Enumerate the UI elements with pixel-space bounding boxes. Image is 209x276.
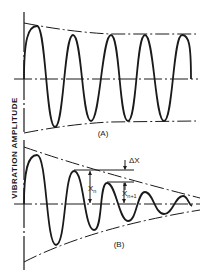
y-axis-label: VIBRATION AMPLITUDE xyxy=(10,97,19,199)
panel-a-upper-envelope xyxy=(24,23,196,34)
panel-b-upper-envelope xyxy=(24,147,200,198)
xn-arrowhead-top xyxy=(88,171,92,175)
panel-b-label: (B) xyxy=(114,240,125,249)
delta-x-label: ΔX xyxy=(129,156,140,165)
xn-arrowhead-bottom xyxy=(88,199,92,203)
xn-label: Xn xyxy=(88,184,96,194)
panel-a-lower-envelope xyxy=(24,121,196,133)
xn1-label: Xn+1 xyxy=(122,189,137,199)
panel-a-waveform xyxy=(24,26,191,127)
vibration-diagram: (A) ΔX Xn Xn+1 (B) xyxy=(0,0,209,276)
panel-a-label: (A) xyxy=(98,129,109,138)
panel-b: ΔX Xn Xn+1 (B) xyxy=(14,140,200,270)
xn1-arrowhead-bottom xyxy=(122,199,126,203)
panel-a: (A) xyxy=(14,12,198,138)
panel-b-waveform xyxy=(24,155,192,245)
delta-x-arrowhead-top xyxy=(123,166,127,170)
